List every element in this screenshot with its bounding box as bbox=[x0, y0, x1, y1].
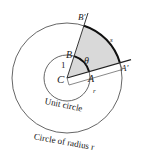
label-radius-r: r bbox=[93, 87, 96, 95]
label-C: C bbox=[57, 73, 65, 85]
diagram-canvas: C A B A′ B′ θ 1 r s Unit circle Circle o… bbox=[0, 0, 141, 155]
label-arc-s: s bbox=[110, 36, 113, 44]
label-B-prime: B′ bbox=[78, 12, 86, 22]
label-theta: θ bbox=[84, 55, 89, 66]
caption-outer-circle: Circle of radius r bbox=[33, 131, 95, 151]
label-A-prime: A′ bbox=[120, 63, 129, 73]
label-A: A bbox=[87, 73, 95, 84]
label-radius-1: 1 bbox=[61, 60, 66, 70]
label-B: B bbox=[66, 49, 72, 60]
